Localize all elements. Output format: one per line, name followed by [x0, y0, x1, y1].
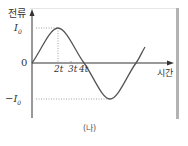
- negative-peak-label: −I0: [5, 93, 21, 106]
- positive-peak-label: I0: [14, 22, 22, 35]
- y-axis-label: 전류: [8, 8, 19, 19]
- y-axis-arrow-icon: [30, 9, 35, 16]
- tick-label-2t: 2t: [54, 64, 63, 74]
- tick-label-4t: 4t: [79, 64, 88, 74]
- x-axis-arrow-icon: [167, 61, 174, 66]
- x-axis-label: 시간: [157, 66, 173, 79]
- tick-label-3t: 3t: [68, 64, 77, 74]
- figure-caption: (나): [83, 122, 96, 133]
- origin-label: 0: [21, 57, 27, 68]
